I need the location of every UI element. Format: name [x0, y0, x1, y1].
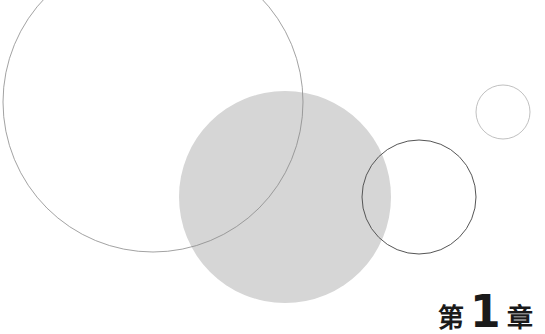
gray-filled-circle [179, 91, 391, 303]
chapter-suffix: 章 [507, 303, 533, 333]
chapter-heading: 第1章 [438, 290, 533, 334]
chapter-number: 1 [470, 286, 501, 334]
small-outline-circle [476, 85, 530, 139]
chapter-prefix: 第 [438, 303, 464, 333]
